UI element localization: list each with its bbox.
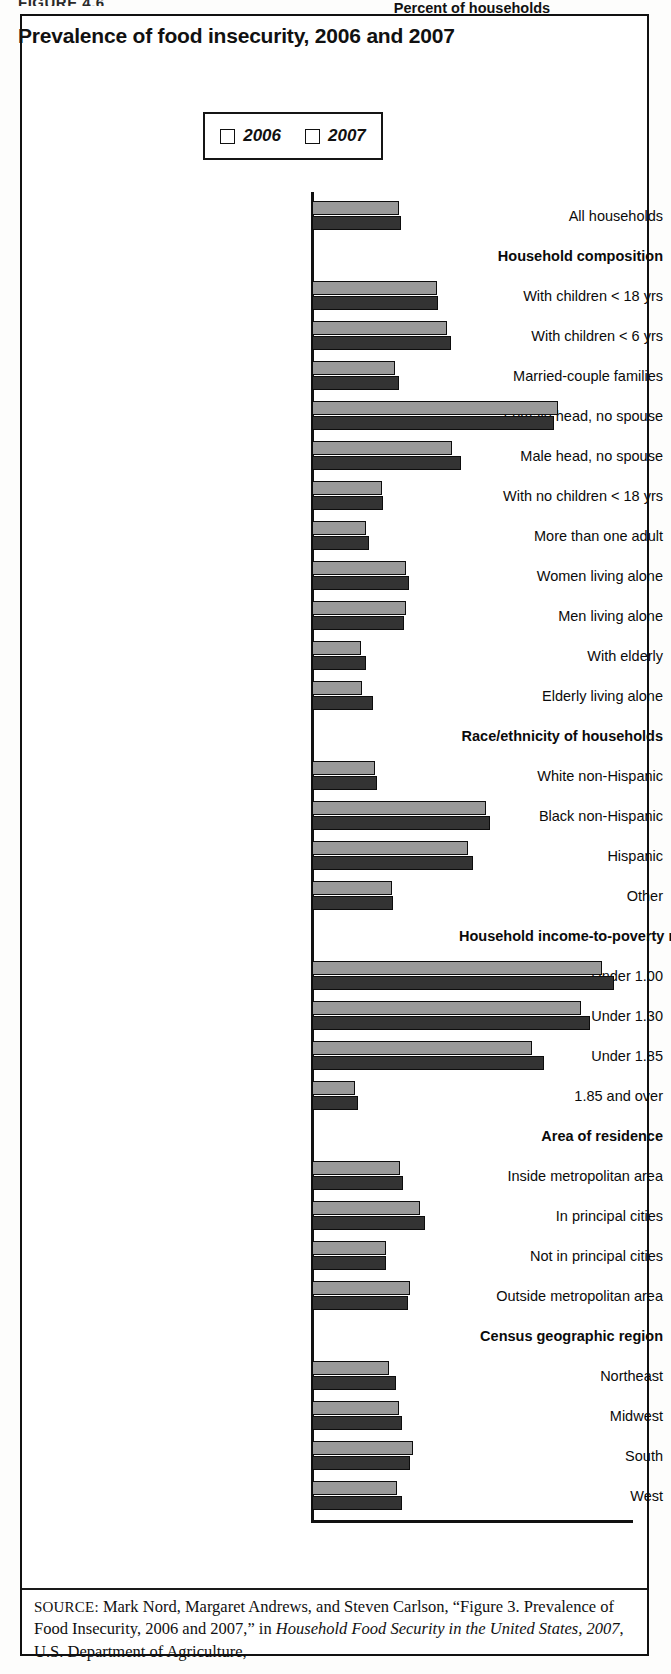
- bar-2006[interactable]: [312, 401, 558, 415]
- bar-2006[interactable]: [312, 441, 452, 455]
- bar-2007[interactable]: [312, 1456, 410, 1470]
- bar-group: [312, 1156, 636, 1196]
- bar-2006[interactable]: [312, 1281, 410, 1295]
- bar-2007[interactable]: [312, 776, 377, 790]
- chart-category-row: Other: [0, 876, 671, 916]
- bar-2006[interactable]: [312, 1201, 420, 1215]
- bar-2006[interactable]: [312, 521, 366, 535]
- bar-2007[interactable]: [312, 1096, 358, 1110]
- source-divider: [22, 1588, 647, 1590]
- bar-group: [312, 1476, 636, 1516]
- bar-group: [312, 1036, 636, 1076]
- bar-2007[interactable]: [312, 1496, 402, 1510]
- chart-category-row: Midwest: [0, 1396, 671, 1436]
- chart-category-row: With elderly: [0, 636, 671, 676]
- chart-category-row: Women living alone: [0, 556, 671, 596]
- chart-category-row: Hispanic: [0, 836, 671, 876]
- bar-2007[interactable]: [312, 1056, 544, 1070]
- bar-2007[interactable]: [312, 1176, 403, 1190]
- bar-group: [312, 1076, 636, 1116]
- bar-group: [312, 1316, 636, 1356]
- bar-2006[interactable]: [312, 801, 486, 815]
- bar-2006[interactable]: [312, 281, 437, 295]
- bar-2006[interactable]: [312, 1481, 397, 1495]
- bar-2006[interactable]: [312, 1041, 532, 1055]
- bar-2006[interactable]: [312, 1001, 581, 1015]
- bar-group: [312, 1236, 636, 1276]
- bar-group: [312, 436, 636, 476]
- source-title-1: Household Food: [276, 1619, 386, 1638]
- bar-2006[interactable]: [312, 841, 468, 855]
- bar-group: [312, 1356, 636, 1396]
- bar-2007[interactable]: [312, 496, 383, 510]
- bar-2007[interactable]: [312, 1416, 402, 1430]
- bar-2007[interactable]: [312, 1256, 386, 1270]
- bar-2007[interactable]: [312, 576, 409, 590]
- bar-2006[interactable]: [312, 681, 362, 695]
- chart-category-row: 1.85 and over: [0, 1076, 671, 1116]
- bar-2007[interactable]: [312, 656, 366, 670]
- chart-category-row: Elderly living alone: [0, 676, 671, 716]
- bar-group: [312, 1436, 636, 1476]
- bar-2006[interactable]: [312, 561, 406, 575]
- bar-2007[interactable]: [312, 216, 401, 230]
- bar-2006[interactable]: [312, 881, 392, 895]
- bar-2006[interactable]: [312, 641, 361, 655]
- chart-category-row: Male head, no spouse: [0, 436, 671, 476]
- chart-category-row: Men living alone: [0, 596, 671, 636]
- bar-group: [312, 516, 636, 556]
- chart-category-row: South: [0, 1436, 671, 1476]
- bar-group: [312, 956, 636, 996]
- bar-group: [312, 836, 636, 876]
- bar-2006[interactable]: [312, 1161, 400, 1175]
- chart-category-row: More than one adult: [0, 516, 671, 556]
- bar-2006[interactable]: [312, 481, 382, 495]
- bar-2006[interactable]: [312, 1081, 355, 1095]
- bar-2007[interactable]: [312, 536, 369, 550]
- bar-group: [312, 196, 636, 236]
- bar-group: [312, 476, 636, 516]
- bar-2006[interactable]: [312, 1361, 389, 1375]
- chart-category-row: With children < 18 yrs: [0, 276, 671, 316]
- bar-2006[interactable]: [312, 961, 602, 975]
- bar-2007[interactable]: [312, 616, 404, 630]
- bar-2006[interactable]: [312, 321, 447, 335]
- bar-2006[interactable]: [312, 1401, 399, 1415]
- bar-2007[interactable]: [312, 456, 461, 470]
- chart-category-row: Not in principal cities: [0, 1236, 671, 1276]
- bar-2007[interactable]: [312, 816, 490, 830]
- chart-group-heading-row: Household income-to-poverty ratio: [0, 916, 671, 956]
- bar-2007[interactable]: [312, 856, 473, 870]
- bar-2007[interactable]: [312, 1296, 408, 1310]
- bar-2006[interactable]: [312, 361, 395, 375]
- figure-page: FIGURE 4.6 Prevalence of food insecurity…: [0, 0, 671, 1674]
- bar-2006[interactable]: [312, 201, 399, 215]
- bar-group: [312, 276, 636, 316]
- bar-2007[interactable]: [312, 336, 451, 350]
- chart-category-row: Outside metropolitan area: [0, 1276, 671, 1316]
- chart-category-row: White non-Hispanic: [0, 756, 671, 796]
- bar-2007[interactable]: [312, 1376, 396, 1390]
- bar-2007[interactable]: [312, 976, 614, 990]
- bar-group: [312, 1276, 636, 1316]
- bar-2007[interactable]: [312, 896, 393, 910]
- bar-2007[interactable]: [312, 1216, 425, 1230]
- chart-category-row: Under 1.85: [0, 1036, 671, 1076]
- bar-2007[interactable]: [312, 1016, 590, 1030]
- x-axis-title: Percent of households: [311, 0, 633, 16]
- plot-inner: Percent of households All householdsHous…: [0, 0, 671, 1674]
- bar-2007[interactable]: [312, 376, 399, 390]
- bar-2007[interactable]: [312, 296, 438, 310]
- bar-2006[interactable]: [312, 761, 375, 775]
- bar-2006[interactable]: [312, 1241, 386, 1255]
- chart-category-row: In principal cities: [0, 1196, 671, 1236]
- bar-group: [312, 396, 636, 436]
- bar-2007[interactable]: [312, 696, 373, 710]
- bar-group: [312, 676, 636, 716]
- bar-2007[interactable]: [312, 416, 554, 430]
- bar-group: [312, 1116, 636, 1156]
- bar-2006[interactable]: [312, 1441, 413, 1455]
- chart-group-heading-row: Census geographic region: [0, 1316, 671, 1356]
- source-note: SOURCE: Mark Nord, Margaret Andrews, and…: [34, 1596, 639, 1663]
- bar-2006[interactable]: [312, 601, 406, 615]
